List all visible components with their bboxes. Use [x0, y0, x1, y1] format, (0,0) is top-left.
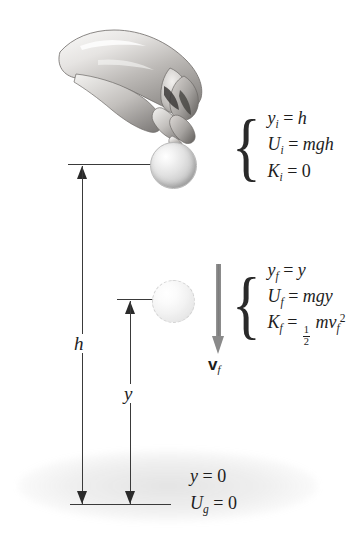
equation-group-final: { yf = y Uf = mgy Kf = 1 2 mvf2 [228, 260, 346, 348]
arrowhead-down-icon [77, 491, 87, 504]
equation-group-initial: { yi = h Ui = mgh Ki = 0 [228, 108, 334, 184]
equation-Ui: Ui = mgh [267, 134, 333, 157]
figure-canvas: h y vf { yi = h Ui = mgh Ki [0, 0, 351, 557]
hand-releasing-ball-photo [58, 16, 213, 148]
left-brace-icon: { [232, 266, 261, 342]
ball-initial [150, 142, 197, 189]
equation-yi: yi = h [267, 108, 333, 131]
equation-yf: yf = y [267, 260, 345, 283]
arrow-shaft [216, 264, 221, 338]
measurement-label-y: y [122, 384, 134, 403]
ground-label-group: y = 0 Ug = 0 [190, 466, 237, 516]
velocity-subscript: f [217, 363, 220, 375]
measurement-label-h: h [72, 334, 86, 353]
equation-Uf: Uf = mgy [267, 286, 345, 309]
equation-Kf: Kf = 1 2 mvf2 [267, 312, 345, 347]
velocity-label: vf [208, 356, 221, 375]
reference-line-ground [70, 504, 171, 505]
equation-Ug-zero: Ug = 0 [190, 493, 237, 516]
left-brace-icon: { [232, 108, 261, 184]
reference-line-final-height [117, 299, 154, 300]
equation-Ki: Ki = 0 [267, 161, 333, 184]
arrowhead-down-icon [125, 491, 135, 504]
ground-shadow [18, 450, 318, 522]
fraction-one-half: 1 2 [303, 325, 310, 347]
ball-final [152, 280, 195, 323]
equation-y-zero: y = 0 [190, 466, 237, 489]
arrowhead-down-icon [212, 336, 224, 354]
